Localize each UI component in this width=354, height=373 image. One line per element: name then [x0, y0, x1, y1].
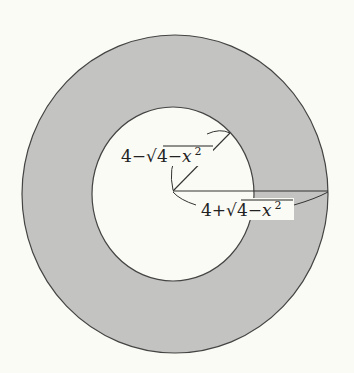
outer-radius-label: 4+√4−x2	[201, 199, 282, 220]
inner-radius-label: 4−√4−x2	[121, 145, 202, 166]
washer-diagram: 4−√4−x2 4+√4−x2	[0, 0, 354, 373]
